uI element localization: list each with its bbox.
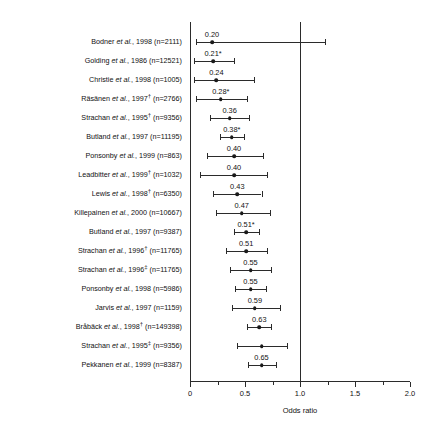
point-estimate-marker — [249, 268, 253, 272]
forest-plot-figure: Bodner et al., 1998 (n=2111)Golding et a… — [0, 0, 427, 438]
confidence-interval-cap — [194, 58, 195, 64]
point-estimate-marker — [236, 192, 240, 196]
confidence-interval-cap — [210, 115, 211, 121]
confidence-interval-cap — [247, 324, 248, 330]
point-estimate-marker — [215, 78, 219, 82]
confidence-interval-cap — [271, 324, 272, 330]
confidence-interval-cap — [270, 210, 271, 216]
x-axis-major-tick — [190, 382, 191, 387]
point-estimate-label: 0.59 — [248, 296, 262, 305]
point-estimate-marker — [244, 249, 248, 253]
confidence-interval-cap — [207, 153, 208, 159]
confidence-interval-cap — [220, 134, 221, 140]
x-axis-tick-label: 0.5 — [240, 389, 250, 398]
point-estimate-marker — [210, 40, 214, 44]
x-axis-tick-label: 1.5 — [350, 389, 360, 398]
confidence-interval-cap — [194, 77, 195, 83]
confidence-interval-cap — [216, 210, 217, 216]
confidence-interval-cap — [249, 115, 250, 121]
x-axis-title: Odds ratio — [283, 406, 318, 415]
point-estimate-marker — [228, 116, 232, 120]
point-estimate-marker — [249, 287, 253, 291]
confidence-interval-cap — [200, 172, 201, 178]
x-axis-tick-label: 0 — [188, 389, 192, 398]
confidence-interval-cap — [237, 343, 238, 349]
plot-left-spine — [190, 22, 191, 381]
confidence-interval-bar — [194, 80, 253, 81]
confidence-interval-cap — [276, 362, 277, 368]
confidence-interval-cap — [280, 305, 281, 311]
point-estimate-marker — [253, 306, 257, 310]
x-axis-major-tick — [245, 382, 246, 387]
point-estimate-label: 0.63 — [252, 315, 266, 324]
confidence-interval-cap — [213, 191, 214, 197]
x-axis-minor-tick — [383, 382, 384, 385]
point-estimate-marker — [260, 344, 264, 348]
confidence-interval-cap — [244, 134, 245, 140]
confidence-interval-cap — [287, 343, 288, 349]
point-estimate-marker — [240, 211, 244, 215]
point-estimate-label: 0.51* — [237, 220, 254, 229]
point-estimate-label: 0.43 — [230, 182, 244, 191]
point-estimate-marker — [211, 59, 215, 63]
point-estimate-label: 0.20 — [205, 30, 219, 39]
confidence-interval-cap — [196, 96, 197, 102]
x-axis-tick-label: 1.0 — [295, 389, 305, 398]
point-estimate-marker — [258, 325, 262, 329]
point-estimate-label: 0.55 — [243, 258, 257, 267]
point-estimate-marker — [219, 97, 223, 101]
point-estimate-label: 0.47 — [234, 201, 248, 210]
confidence-interval-bar — [196, 42, 326, 43]
confidence-interval-cap — [247, 96, 248, 102]
confidence-interval-cap — [234, 229, 235, 235]
confidence-interval-cap — [254, 77, 255, 83]
point-estimate-marker — [230, 135, 234, 139]
point-estimate-label: 0.51 — [239, 239, 253, 248]
x-axis-major-tick — [410, 382, 411, 387]
point-estimate-marker — [232, 173, 236, 177]
confidence-interval-cap — [266, 286, 267, 292]
confidence-interval-cap — [235, 286, 236, 292]
point-estimate-label: 0.36 — [222, 106, 236, 115]
x-axis-minor-tick — [328, 382, 329, 385]
confidence-interval-cap — [262, 191, 263, 197]
point-estimate-label: 0.21* — [204, 49, 221, 58]
point-estimate-marker — [232, 154, 236, 158]
confidence-interval-cap — [325, 39, 326, 45]
plot-area: 00.51.01.52.0 0.200.21*0.240.28*0.360.38… — [0, 0, 427, 438]
confidence-interval-cap — [267, 248, 268, 254]
confidence-interval-cap — [230, 267, 231, 273]
point-estimate-marker — [244, 230, 248, 234]
confidence-interval-cap — [263, 153, 264, 159]
point-estimate-label: 0.40 — [227, 163, 241, 172]
x-axis-major-tick — [355, 382, 356, 387]
point-estimate-label: 0.28* — [212, 87, 229, 96]
confidence-interval-cap — [259, 229, 260, 235]
point-estimate-label: 0.24 — [209, 68, 223, 77]
point-estimate-label: 0.65 — [254, 353, 268, 362]
point-estimate-label: 0.55 — [243, 277, 257, 286]
confidence-interval-cap — [232, 305, 233, 311]
reference-line — [300, 22, 301, 381]
confidence-interval-cap — [226, 248, 227, 254]
confidence-interval-cap — [248, 362, 249, 368]
confidence-interval-cap — [267, 172, 268, 178]
confidence-interval-cap — [234, 58, 235, 64]
point-estimate-marker — [260, 363, 264, 367]
x-axis-tick-label: 2.0 — [405, 389, 415, 398]
confidence-interval-cap — [271, 267, 272, 273]
confidence-interval-cap — [196, 39, 197, 45]
point-estimate-label: 0.40 — [227, 144, 241, 153]
x-axis-major-tick — [300, 382, 301, 387]
point-estimate-label: 0.38* — [223, 125, 240, 134]
x-axis-minor-tick — [273, 382, 274, 385]
x-axis-minor-tick — [218, 382, 219, 385]
